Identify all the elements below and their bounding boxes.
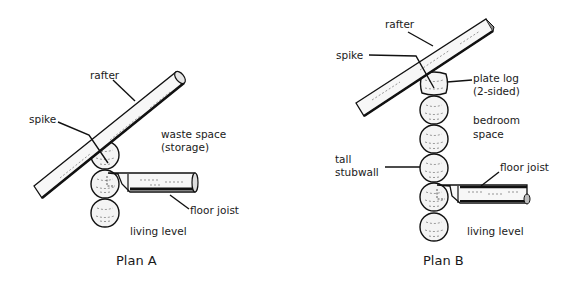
plan-b-log-6 bbox=[420, 213, 448, 241]
plan-b-log-5 bbox=[420, 183, 448, 211]
plan-b-plate-log-leader bbox=[447, 80, 472, 82]
log-wall-diagrams: rafter spike waste space (storage) floor… bbox=[0, 0, 576, 285]
plan-a-floor-joist-leader bbox=[170, 195, 189, 209]
plan-b-stubwall-label-line2: stubwall bbox=[335, 166, 379, 178]
plan-a-space-label-line1: waste space bbox=[161, 128, 226, 140]
plan-b-rafter-label: rafter bbox=[385, 18, 415, 30]
plan-b-space-label-line2: space bbox=[473, 128, 504, 140]
plan-a-spike-label: spike bbox=[29, 113, 56, 125]
plan-a-floor-joist bbox=[108, 173, 198, 192]
plan-b-caption: Plan B bbox=[423, 253, 464, 268]
plan-b-log-4 bbox=[420, 154, 448, 182]
plan-b-log-3 bbox=[420, 125, 448, 153]
plan-a: rafter spike waste space (storage) floor… bbox=[29, 69, 239, 268]
plan-a-floor-joist-label: floor joist bbox=[190, 204, 239, 216]
plan-a-rafter-leader bbox=[113, 80, 135, 101]
plan-b-spike-label: spike bbox=[336, 49, 363, 61]
plan-a-space-label-line2: (storage) bbox=[161, 141, 209, 153]
plan-b-stubwall-label-line1: tall bbox=[335, 153, 351, 165]
plan-a-bottom-log bbox=[91, 199, 119, 227]
plan-b-floor-joist bbox=[437, 185, 530, 204]
plan-b-floor-joist-leader bbox=[481, 172, 499, 186]
plan-b-space-label-line1: bedroom bbox=[473, 114, 520, 126]
plan-b-living-level-label: living level bbox=[467, 225, 524, 237]
plan-b-rafter-leader bbox=[408, 32, 433, 46]
plan-a-rafter-label: rafter bbox=[90, 69, 120, 81]
plan-b-log-stack bbox=[420, 72, 448, 241]
plan-b-plate-log-label-line2: (2-sided) bbox=[473, 85, 520, 97]
plan-a-caption: Plan A bbox=[116, 253, 157, 268]
plan-b-floor-joist-label: floor joist bbox=[500, 161, 549, 173]
plan-b-plate-log-label-line1: plate log bbox=[473, 72, 519, 84]
plan-a-living-level-label: living level bbox=[130, 225, 187, 237]
plan-b: rafter spike plate log (2-sided) bedroom… bbox=[335, 18, 549, 268]
plan-b-log-2 bbox=[420, 96, 448, 124]
